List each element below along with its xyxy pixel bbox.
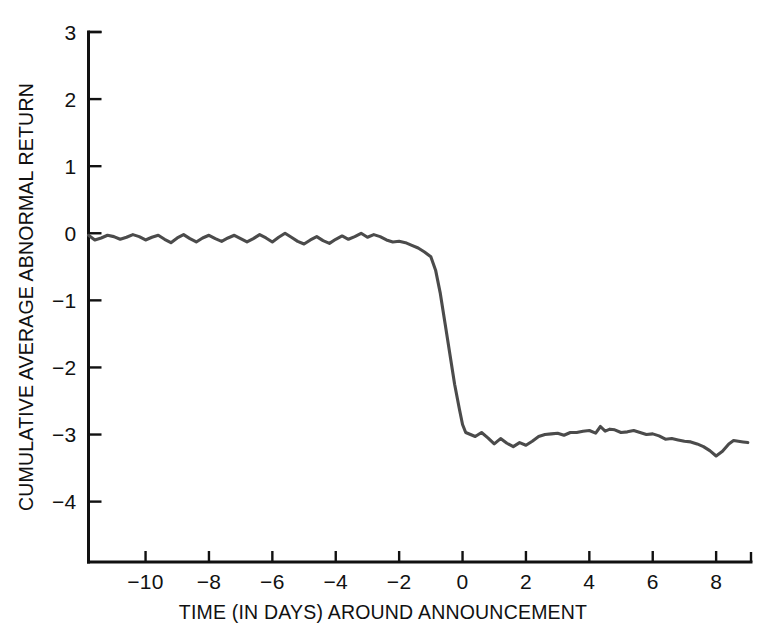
x-axis-tick-labels: −10−8−6−4−202468	[127, 570, 722, 593]
x-tick-label: 0	[457, 570, 469, 593]
y-tick-label: −4	[52, 490, 77, 513]
x-tick-label: −10	[127, 570, 164, 593]
x-axis-title: TIME (IN DAYS) AROUND ANNOUNCEMENT	[179, 601, 587, 623]
chart-figure: 3210−1−2−3−4 −10−8−6−4−202468 TIME (IN D…	[0, 0, 767, 637]
data-line-cumulative-average-abnormal-return	[89, 233, 748, 456]
y-axis-ticks	[89, 32, 102, 502]
x-tick-label: 4	[583, 570, 595, 593]
x-axis-ticks	[146, 551, 717, 562]
y-tick-label: 1	[65, 155, 77, 178]
data-series-group	[89, 233, 748, 456]
x-tick-label: −2	[387, 570, 412, 593]
y-tick-label: 2	[65, 88, 77, 111]
axes-group: 3210−1−2−3−4 −10−8−6−4−202468	[52, 21, 751, 594]
chart-plot-area: 3210−1−2−3−4 −10−8−6−4−202468 TIME (IN D…	[0, 0, 767, 637]
x-tick-label: 6	[647, 570, 659, 593]
x-tick-label: −8	[197, 570, 222, 593]
y-tick-label: 3	[65, 21, 77, 44]
y-tick-label: −2	[52, 356, 77, 379]
y-axis-title: CUMULATIVE AVERAGE ABNORMAL RETURN	[15, 83, 37, 511]
x-tick-label: −6	[260, 570, 285, 593]
y-tick-label: −3	[52, 423, 77, 446]
y-axis-tick-labels: 3210−1−2−3−4	[52, 21, 77, 514]
y-tick-label: 0	[65, 222, 77, 245]
x-tick-label: −4	[323, 570, 348, 593]
y-tick-label: −1	[52, 289, 77, 312]
x-tick-label: 2	[520, 570, 532, 593]
x-tick-label: 8	[710, 570, 722, 593]
